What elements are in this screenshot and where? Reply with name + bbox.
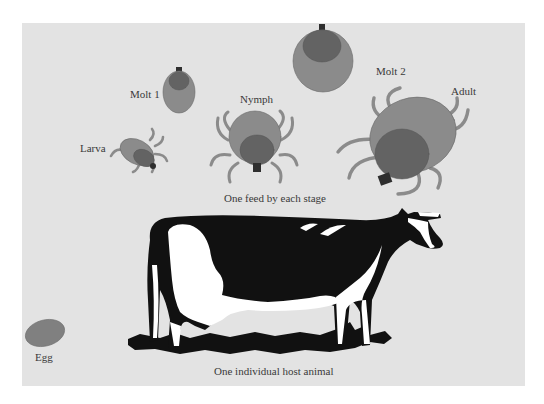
larva-tick-icon: [111, 129, 167, 172]
cow-icon: [128, 208, 443, 354]
feeding-caption: One feed by each stage: [224, 193, 326, 204]
adult-tick-icon: [338, 85, 468, 194]
egg-label: Egg: [35, 352, 53, 363]
molt1-label: Molt 1: [130, 89, 160, 100]
larva-label: Larva: [80, 143, 106, 154]
molt2-label: Molt 2: [376, 66, 406, 77]
host-caption: One individual host animal: [214, 366, 333, 377]
nymph-tick-icon: [211, 111, 297, 182]
molt2-tick-icon: [293, 24, 353, 92]
egg-icon: [22, 315, 67, 350]
nymph-label: Nymph: [240, 94, 273, 105]
adult-label: Adult: [451, 86, 476, 97]
molt1-tick-icon: [163, 67, 195, 113]
